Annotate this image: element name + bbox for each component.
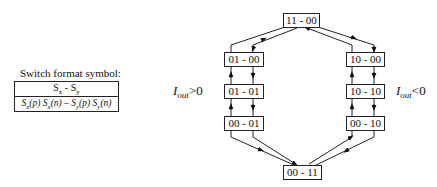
- state-box-11-00: 11 - 00: [283, 13, 320, 28]
- arrow-1100-to-1000: [318, 27, 374, 52]
- arrow-0001-to-0011-b: [253, 131, 297, 165]
- arrow-1100-to-0100: [253, 28, 297, 52]
- state-box-10-00: 10 - 00: [346, 52, 385, 67]
- state-box-01-00: 01 - 00: [224, 52, 264, 67]
- arrow-0010-to-0011: [314, 131, 374, 166]
- state-box-01-01: 01 - 01: [224, 84, 264, 99]
- state-box-00-11: 00 - 11: [283, 165, 322, 180]
- arrow-0100-to-1100: [231, 27, 285, 52]
- arrow-0011-to-0010: [309, 131, 352, 164]
- state-box-10-10: 10 - 10: [346, 84, 385, 99]
- arrow-0001-to-0011-a: [231, 131, 294, 165]
- state-box-00-01: 00 - 01: [224, 116, 264, 131]
- state-box-00-10: 00 - 10: [346, 116, 385, 131]
- arrow-1000-to-1100: [307, 28, 352, 52]
